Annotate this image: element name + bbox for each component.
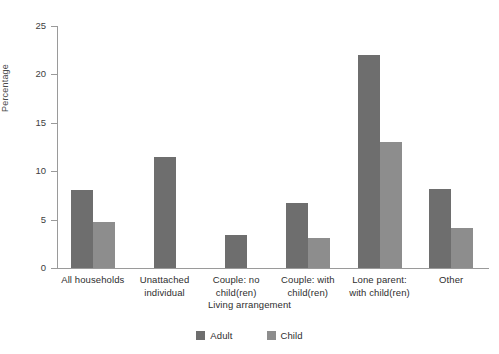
- x-axis-title: Living arrangement: [0, 299, 499, 310]
- bar-group: [57, 26, 487, 268]
- y-tick-label: 25: [18, 20, 46, 31]
- y-tick-label: 15: [18, 117, 46, 128]
- x-axis-line: [57, 268, 489, 269]
- x-category-label-line: Other: [405, 273, 497, 286]
- legend-item[interactable]: Adult: [196, 330, 232, 341]
- y-tick-mark: [51, 268, 57, 269]
- chart-legend: AdultChild: [0, 330, 499, 341]
- legend-item[interactable]: Child: [267, 330, 303, 341]
- y-tick-label: 10: [18, 165, 46, 176]
- bar-chart: Percentage 0510152025 All householdsUnat…: [0, 0, 499, 354]
- y-tick-label: 5: [18, 214, 46, 225]
- bar-child: [451, 228, 473, 268]
- y-tick-label: 0: [18, 262, 46, 273]
- x-category-label: Other: [405, 273, 497, 286]
- legend-label: Adult: [210, 330, 232, 341]
- legend-swatch-icon: [267, 331, 276, 340]
- plot-area: [57, 26, 487, 268]
- bar-adult: [429, 189, 451, 268]
- y-tick-label: 20: [18, 68, 46, 79]
- x-category-label-line: with child(ren): [334, 286, 426, 299]
- legend-swatch-icon: [196, 331, 205, 340]
- legend-label: Child: [281, 330, 303, 341]
- y-axis-title: Percentage: [0, 38, 10, 138]
